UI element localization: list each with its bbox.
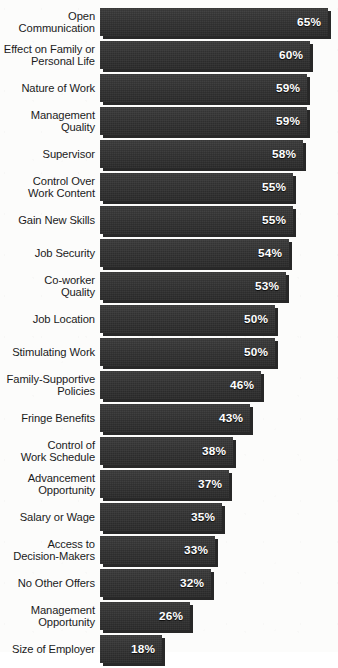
bar-row: Gain New Skills55% xyxy=(0,206,338,234)
bar-category-label: Fringe Benefits xyxy=(0,412,100,424)
bar-track: 50% xyxy=(100,305,338,333)
bar-track: 38% xyxy=(100,437,338,465)
bar-track: 35% xyxy=(100,503,338,531)
bar-value-label: 43% xyxy=(219,411,250,425)
bar: 32% xyxy=(100,569,211,597)
bar: 50% xyxy=(100,338,275,366)
bar-category-label: Open Communication xyxy=(0,10,100,35)
bar-value-label: 50% xyxy=(244,312,275,326)
bar-value-label: 65% xyxy=(297,15,328,29)
bar-category-label: Salary or Wage xyxy=(0,511,100,523)
bar: 26% xyxy=(100,602,190,630)
bar: 59% xyxy=(100,107,307,135)
bar-track: 18% xyxy=(100,635,338,663)
bar-category-label: Job Location xyxy=(0,313,100,325)
bar-category-label: Size of Employer xyxy=(0,643,100,655)
bar: 55% xyxy=(100,173,293,201)
bar-track: 59% xyxy=(100,74,338,102)
bar-value-label: 60% xyxy=(279,48,310,62)
bar-value-label: 53% xyxy=(255,279,286,293)
bar-row: Management Opportunity26% xyxy=(0,602,338,630)
bar-track: 46% xyxy=(100,371,338,399)
bar-value-label: 33% xyxy=(184,543,215,557)
bar-track: 55% xyxy=(100,206,338,234)
bar: 60% xyxy=(100,41,310,69)
bar-category-label: Management Quality xyxy=(0,109,100,134)
bar-row: Control Over Work Content55% xyxy=(0,173,338,201)
bar-row: Supervisor58% xyxy=(0,140,338,168)
bar: 58% xyxy=(100,140,303,168)
bar-row: Open Communication65% xyxy=(0,8,338,36)
bar-value-label: 35% xyxy=(191,510,222,524)
bar-track: 37% xyxy=(100,470,338,498)
bar-track: 53% xyxy=(100,272,338,300)
bar: 55% xyxy=(100,206,293,234)
bar-category-label: Control Over Work Content xyxy=(0,175,100,200)
bar-row: Advancement Opportunity37% xyxy=(0,470,338,498)
bar-track: 55% xyxy=(100,173,338,201)
bar-category-label: Job Security xyxy=(0,247,100,259)
bar-row: Family-Supportive Policies46% xyxy=(0,371,338,399)
bar-row: Size of Employer18% xyxy=(0,635,338,663)
bar: 43% xyxy=(100,404,250,432)
bar-value-label: 18% xyxy=(131,642,162,656)
bar: 65% xyxy=(100,8,328,36)
bar-category-label: Family-Supportive Policies xyxy=(0,373,100,398)
bar-category-label: Stimulating Work xyxy=(0,346,100,358)
bar: 53% xyxy=(100,272,286,300)
bar-category-label: Co-worker Quality xyxy=(0,274,100,299)
bar: 18% xyxy=(100,635,162,663)
bar-category-label: No Other Offers xyxy=(0,577,100,589)
bar-value-label: 59% xyxy=(276,114,307,128)
bar-rows-container: Open Communication65%Effect on Family or… xyxy=(0,8,338,668)
bar-value-label: 55% xyxy=(262,213,293,227)
bar: 46% xyxy=(100,371,261,399)
bar-row: Stimulating Work50% xyxy=(0,338,338,366)
bar-row: Effect on Family or Personal Life60% xyxy=(0,41,338,69)
bar-category-label: Access to Decision-Makers xyxy=(0,538,100,563)
bar: 37% xyxy=(100,470,229,498)
bar-row: Control of Work Schedule38% xyxy=(0,437,338,465)
bar-track: 43% xyxy=(100,404,338,432)
bar: 54% xyxy=(100,239,289,267)
bar-track: 50% xyxy=(100,338,338,366)
bar-track: 33% xyxy=(100,536,338,564)
bar-category-label: Supervisor xyxy=(0,148,100,160)
bar-track: 54% xyxy=(100,239,338,267)
bar-row: Nature of Work59% xyxy=(0,74,338,102)
bar-row: Access to Decision-Makers33% xyxy=(0,536,338,564)
bar-track: 65% xyxy=(100,8,338,36)
bar-value-label: 55% xyxy=(262,180,293,194)
bar-value-label: 38% xyxy=(202,444,233,458)
bar-value-label: 37% xyxy=(198,477,229,491)
bar-row: Co-worker Quality53% xyxy=(0,272,338,300)
bar-value-label: 58% xyxy=(272,147,303,161)
bar-value-label: 59% xyxy=(276,81,307,95)
bar-value-label: 50% xyxy=(244,345,275,359)
bar-category-label: Gain New Skills xyxy=(0,214,100,226)
bar-track: 60% xyxy=(100,41,338,69)
bar: 35% xyxy=(100,503,222,531)
bar-row: Job Security54% xyxy=(0,239,338,267)
bar-track: 58% xyxy=(100,140,338,168)
bar-row: Management Quality59% xyxy=(0,107,338,135)
bar-category-label: Advancement Opportunity xyxy=(0,472,100,497)
bar-category-label: Control of Work Schedule xyxy=(0,439,100,464)
bar-track: 32% xyxy=(100,569,338,597)
bar: 38% xyxy=(100,437,233,465)
bar: 33% xyxy=(100,536,215,564)
clipped-chart-title xyxy=(0,0,338,6)
bar-category-label: Nature of Work xyxy=(0,82,100,94)
bar-row: No Other Offers32% xyxy=(0,569,338,597)
bar-category-label: Management Opportunity xyxy=(0,604,100,629)
bar: 59% xyxy=(100,74,307,102)
bar-value-label: 32% xyxy=(180,576,211,590)
bar-row: Job Location50% xyxy=(0,305,338,333)
bar-value-label: 46% xyxy=(230,378,261,392)
bar-value-label: 26% xyxy=(159,609,190,623)
bar-row: Salary or Wage35% xyxy=(0,503,338,531)
bar-value-label: 54% xyxy=(258,246,289,260)
bar-track: 59% xyxy=(100,107,338,135)
bar: 50% xyxy=(100,305,275,333)
